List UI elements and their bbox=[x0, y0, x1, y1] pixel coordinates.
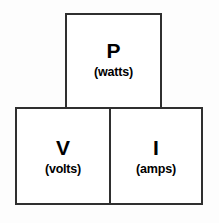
power-unit-label: (watts) bbox=[94, 66, 133, 80]
voltage-unit-label: (volts) bbox=[45, 163, 81, 177]
current-unit-label: (amps) bbox=[136, 163, 176, 177]
power-symbol: P bbox=[106, 40, 120, 62]
power-triangle-diagram: P (watts) V (volts) I (amps) bbox=[0, 0, 219, 223]
cell-voltage-content: V (volts) bbox=[45, 137, 81, 177]
cell-power: P (watts) bbox=[65, 13, 162, 108]
bottom-row: V (volts) I (amps) bbox=[15, 107, 203, 205]
current-symbol: I bbox=[153, 137, 159, 159]
cell-voltage: V (volts) bbox=[17, 109, 109, 203]
cell-current-content: I (amps) bbox=[136, 137, 176, 177]
cell-power-content: P (watts) bbox=[94, 40, 133, 80]
voltage-symbol: V bbox=[56, 137, 70, 159]
cell-current: I (amps) bbox=[109, 109, 201, 203]
